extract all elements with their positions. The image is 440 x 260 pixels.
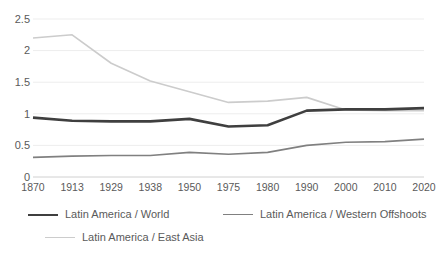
x-axis-tick-label: 1950 [167,181,211,193]
x-axis-tick-label: 2020 [402,181,440,193]
legend-item-label: Latin America / East Asia [82,231,204,244]
x-axis-tick-label: 2010 [363,181,407,193]
chart-legend: Latin America / World Latin America / We… [0,202,435,260]
legend-swatch-line-icon [223,214,253,215]
legend-item-latin-america-east-asia[interactable]: Latin America / East Asia [45,231,204,244]
x-axis-tick-label: 1980 [246,181,290,193]
legend-swatch-line-icon [28,214,58,216]
legend-swatch-line-icon [45,237,75,238]
series-line [33,139,424,157]
x-axis-tick-label: 1975 [207,181,251,193]
legend-item-latin-america-world[interactable]: Latin America / World [28,208,169,221]
x-axis-tick-label: 1929 [89,181,133,193]
x-axis-tick-label: 1938 [128,181,172,193]
x-axis-tick-label: 2000 [324,181,368,193]
x-axis-tick-label: 1870 [11,181,55,193]
x-axis-tick-label: 1913 [50,181,94,193]
x-axis-tick-label: 1990 [285,181,329,193]
series-line [33,35,424,111]
legend-item-label: Latin America / Western Offshoots [260,208,427,221]
legend-item-label: Latin America / World [65,208,169,221]
legend-item-latin-america-western-offshoots[interactable]: Latin America / Western Offshoots [223,208,427,221]
